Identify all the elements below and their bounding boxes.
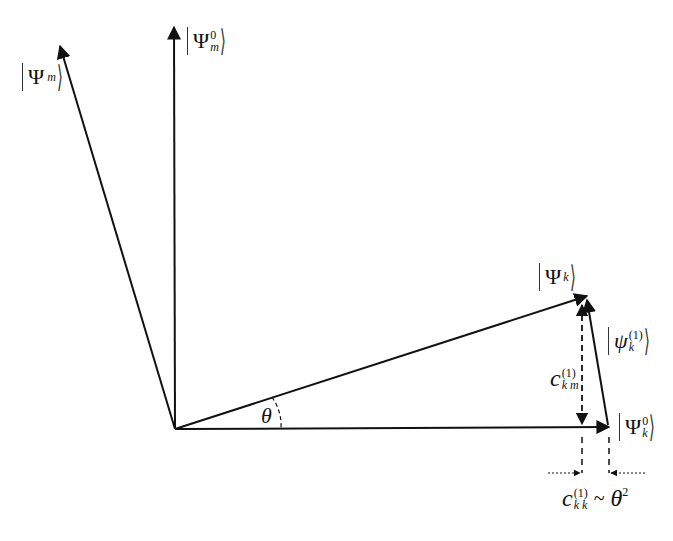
label-psi-k1: ψ (1)k ⟩ [608,326,652,356]
vector-psi-k [175,296,587,429]
label-c-km: c (1)k m [550,365,579,392]
vector-psi-m [60,46,175,429]
label-psi-k: Ψ k ⟩ [539,262,578,292]
perturbation-vector-diagram: Ψ m ⟩ Ψ 0m ⟩ Ψ k ⟩ ψ (1)k ⟩ Ψ 0k ⟩ θ c (… [0,0,673,541]
label-c-kk: c (1)k k ~ θ 2 [562,485,628,512]
vector-psi-k0 [175,427,609,429]
label-psi-m0: Ψ 0m ⟩ [187,26,229,56]
label-psi-m: Ψ m ⟩ [22,62,66,92]
vector-psi-m0 [174,27,175,429]
label-psi-k0: Ψ 0k ⟩ [619,412,658,442]
label-theta: θ [261,403,272,429]
theta-arc [272,397,281,428]
vector-psi-k1 [587,300,608,425]
